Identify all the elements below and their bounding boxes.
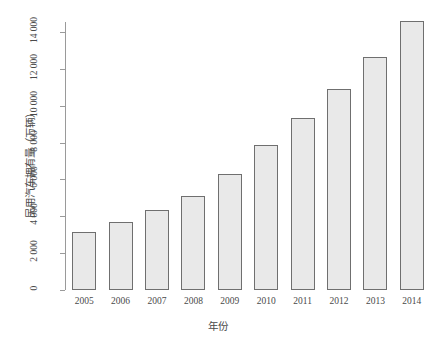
y-tick-mark bbox=[60, 69, 65, 70]
bar-2005 bbox=[72, 232, 96, 290]
y-tick-mark bbox=[60, 106, 65, 107]
bar-2011 bbox=[291, 118, 315, 290]
bar-chart-figure: 民用汽车拥有量（万辆） 02 0004 0006 0008 00010 0001… bbox=[0, 0, 436, 355]
y-tick-mark bbox=[60, 253, 65, 254]
bar-2008 bbox=[181, 196, 205, 290]
y-tick-mark bbox=[60, 32, 65, 33]
y-tick-label: 14 000 bbox=[29, 7, 39, 53]
y-tick-mark bbox=[60, 290, 65, 291]
y-tick-mark bbox=[60, 216, 65, 217]
y-tick-mark bbox=[60, 179, 65, 180]
bar-2006 bbox=[109, 222, 133, 290]
bar-2009 bbox=[218, 174, 242, 290]
x-axis-title: 年份 bbox=[0, 318, 436, 333]
bar-2014 bbox=[400, 21, 424, 290]
bar-2012 bbox=[327, 89, 351, 290]
bar-2007 bbox=[145, 210, 169, 290]
plot-area bbox=[66, 10, 430, 290]
y-tick-mark bbox=[60, 143, 65, 144]
x-tick-label-2014: 2014 bbox=[390, 296, 434, 306]
bar-2013 bbox=[363, 57, 387, 290]
bar-2010 bbox=[254, 145, 278, 290]
